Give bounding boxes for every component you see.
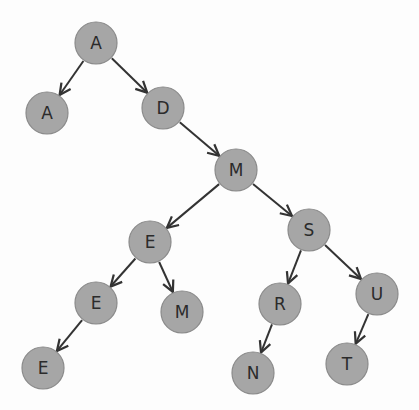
tree-node: N [232, 352, 274, 394]
node-label: S [304, 220, 315, 240]
edge-arrow [159, 262, 173, 292]
edge-arrow [167, 184, 219, 228]
edge-arrow [288, 250, 301, 283]
tree-node: T [326, 343, 368, 385]
node-label: N [247, 363, 260, 383]
node-label: A [41, 103, 53, 123]
node-label: E [91, 293, 102, 313]
tree-node: S [288, 209, 330, 251]
tree-node: A [26, 92, 68, 134]
node-label: A [90, 33, 102, 53]
edge-arrow [180, 122, 219, 156]
tree-node: M [161, 291, 203, 333]
node-label: R [274, 294, 286, 314]
edge-arrow [57, 320, 82, 351]
edge-arrow [261, 324, 272, 352]
tree-node: A [75, 22, 117, 64]
tree-node: E [22, 347, 64, 389]
node-label: D [156, 98, 169, 118]
node-label: M [175, 302, 190, 322]
tree-node: E [75, 282, 117, 324]
nodes-layer: AADMESEMRUENT [22, 22, 398, 394]
node-label: M [229, 160, 244, 180]
edge-arrow [356, 314, 369, 344]
node-label: E [145, 232, 156, 252]
node-label: T [341, 354, 353, 374]
tree-node: D [142, 87, 184, 129]
tree-node: R [259, 283, 301, 325]
node-label: E [38, 358, 49, 378]
edge-arrow [253, 184, 292, 216]
tree-diagram: AADMESEMRUENT [0, 0, 419, 410]
node-label: U [371, 284, 383, 304]
edge-arrow [111, 258, 136, 286]
edge-arrow [112, 58, 147, 92]
tree-node: M [215, 149, 257, 191]
edge-arrow [325, 245, 361, 279]
tree-node: E [129, 221, 171, 263]
tree-node: U [356, 273, 398, 315]
edge-arrow [60, 61, 84, 95]
